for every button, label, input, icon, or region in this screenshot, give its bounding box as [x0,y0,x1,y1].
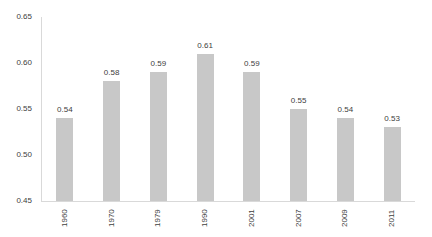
bar-2001 [243,72,260,201]
y-axis-line [41,17,42,201]
x-axis-line [41,201,415,202]
x-tick-label: 2011 [387,210,396,227]
x-tick-label: 1990 [200,209,209,227]
data-label: 0.54 [50,105,80,114]
bar-1960 [56,118,73,201]
data-label: 0.58 [97,68,127,77]
x-tick-label: 2009 [340,209,349,227]
x-tick-label: 1960 [60,209,69,227]
bar-2007 [290,109,307,201]
data-label: 0.61 [190,41,220,50]
y-tick-label: 0.55 [2,104,32,113]
y-tick-label: 0.45 [2,196,32,205]
y-tick-label: 0.65 [2,12,32,21]
bar-chart: 0.450.500.550.600.65 0.5419600.5819700.5… [0,0,432,237]
y-tick-label: 0.60 [2,58,32,67]
data-label: 0.53 [377,114,407,123]
bar-1970 [103,81,120,201]
data-label: 0.59 [237,59,267,68]
x-tick-label: 2007 [294,209,303,227]
bar-2011 [384,127,401,201]
x-tick-label: 1970 [107,209,116,227]
bar-1990 [197,54,214,201]
data-label: 0.59 [143,59,173,68]
x-tick-label: 1979 [153,209,162,227]
bar-2009 [337,118,354,201]
bar-1979 [150,72,167,201]
data-label: 0.55 [284,96,314,105]
y-tick-label: 0.50 [2,150,32,159]
data-label: 0.54 [330,105,360,114]
x-tick-label: 2001 [247,209,256,227]
